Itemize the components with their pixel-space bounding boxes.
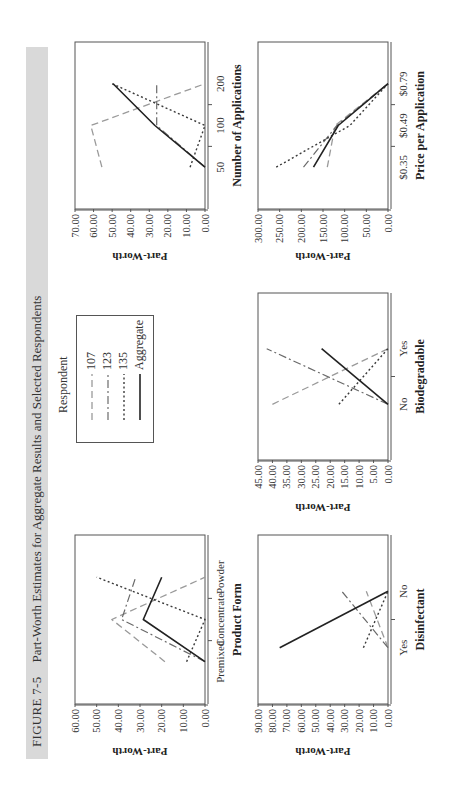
y-tick-label: 20.00 bbox=[156, 709, 167, 733]
y-tick-label: 60.00 bbox=[70, 709, 81, 733]
y-tick-label: 0.00 bbox=[200, 214, 211, 232]
y-tick-label: 60.00 bbox=[296, 709, 307, 733]
y-tick-label: 30.00 bbox=[296, 465, 307, 489]
figure-title: FIGURE 7-5Part-Worth Estimates for Aggre… bbox=[29, 296, 45, 747]
series-107 bbox=[366, 591, 388, 647]
y-tick-label: 60.00 bbox=[88, 214, 99, 238]
x-tick-label: Concentrate bbox=[214, 593, 226, 646]
x-tick-label: Yes bbox=[397, 640, 409, 656]
legend-item-123: 123 bbox=[101, 316, 115, 442]
y-tick-label: 10.00 bbox=[368, 709, 379, 733]
series-107 bbox=[112, 577, 205, 662]
y-tick-label: 150.00 bbox=[318, 214, 329, 243]
legend-item-135: 135 bbox=[117, 316, 131, 442]
chart-svg: 0.0050.00100.00150.00200.00250.00300.00$… bbox=[256, 38, 436, 261]
x-tick-label: 100 bbox=[214, 117, 226, 134]
y-tick-label: 20.00 bbox=[325, 465, 336, 489]
plot-frame bbox=[258, 535, 388, 704]
y-tick-label: 100.00 bbox=[339, 214, 350, 243]
series-123 bbox=[157, 84, 205, 168]
chart-biodegradable: 0.005.0010.0015.0020.0025.0030.0035.0040… bbox=[256, 289, 436, 512]
x-axis-title: Price per Application bbox=[413, 71, 427, 180]
y-tick-label: 50.00 bbox=[107, 214, 118, 238]
y-axis-title: Part-Worth bbox=[113, 251, 168, 263]
series-aggregate bbox=[314, 84, 389, 168]
solid-line-icon bbox=[139, 374, 141, 420]
y-tick-label: 45.00 bbox=[253, 465, 264, 489]
x-tick-label: Premixed bbox=[214, 640, 226, 683]
legend-item-aggregate: Aggregate bbox=[133, 316, 147, 442]
legend-item-107: 107 bbox=[85, 316, 99, 442]
series-135 bbox=[339, 349, 388, 405]
dotted-line-icon bbox=[123, 374, 125, 420]
legend-label: Aggregate bbox=[132, 320, 147, 370]
x-tick-label: Yes bbox=[397, 341, 409, 357]
series-107 bbox=[91, 84, 205, 168]
figure-title-band: FIGURE 7-5Part-Worth Estimates for Aggre… bbox=[26, 47, 48, 759]
y-tick-label: 50.00 bbox=[91, 709, 102, 733]
x-tick-label: $0.79 bbox=[397, 71, 409, 96]
chart-svg: 0.005.0010.0015.0020.0025.0030.0035.0040… bbox=[256, 289, 436, 512]
y-tick-label: 20.00 bbox=[354, 709, 365, 733]
y-tick-label: 40.00 bbox=[267, 465, 278, 489]
series-123 bbox=[304, 84, 389, 168]
series-aggregate bbox=[280, 591, 388, 647]
y-tick-label: 5.00 bbox=[368, 465, 379, 483]
y-tick-label: 80.00 bbox=[267, 709, 278, 733]
x-tick-label: 50 bbox=[214, 161, 226, 173]
x-axis-title: Number of Applications bbox=[230, 64, 244, 187]
y-tick-label: 70.00 bbox=[70, 214, 81, 238]
y-tick-label: 0.00 bbox=[383, 214, 394, 232]
chart-svg: 0.0010.0020.0030.0040.0050.0060.00Premix… bbox=[73, 531, 253, 756]
y-tick-label: 10.00 bbox=[181, 214, 192, 238]
y-tick-label: 50.00 bbox=[310, 709, 321, 733]
dashed-line-icon bbox=[91, 374, 93, 420]
figure-caption: Part-Worth Estimates for Aggregate Resul… bbox=[29, 296, 44, 663]
y-tick-label: 40.00 bbox=[113, 709, 124, 733]
y-tick-label: 10.00 bbox=[178, 709, 189, 733]
y-axis-title: Part-Worth bbox=[296, 251, 351, 263]
y-tick-label: 25.00 bbox=[310, 465, 321, 489]
y-tick-label: 250.00 bbox=[274, 214, 285, 243]
y-axis-title: Part-Worth bbox=[296, 746, 351, 758]
chart-disinfectant: 0.0010.0020.0030.0040.0050.0060.0070.008… bbox=[256, 531, 436, 756]
y-tick-label: 300.00 bbox=[253, 214, 264, 243]
dashdot-line-icon bbox=[107, 374, 109, 420]
y-tick-label: 90.00 bbox=[253, 709, 264, 733]
y-tick-label: 40.00 bbox=[125, 214, 136, 238]
plot-frame bbox=[75, 535, 205, 704]
series-aggregate bbox=[322, 349, 388, 405]
y-tick-label: 0.00 bbox=[383, 465, 394, 483]
x-axis-title: Biodegradable bbox=[413, 338, 427, 413]
x-tick-label: $0.35 bbox=[397, 154, 409, 179]
chart-product-form: 0.0010.0020.0030.0040.0050.0060.00Premix… bbox=[73, 531, 253, 756]
y-tick-label: 0.00 bbox=[200, 709, 211, 727]
y-tick-label: 40.00 bbox=[325, 709, 336, 733]
legend-label: 123 bbox=[100, 352, 115, 370]
y-axis-title: Part-Worth bbox=[113, 746, 168, 758]
y-tick-label: 200.00 bbox=[296, 214, 307, 243]
y-tick-label: 30.00 bbox=[144, 214, 155, 238]
x-tick-label: No bbox=[397, 584, 409, 598]
x-tick-label: Powder bbox=[214, 560, 226, 594]
x-tick-label: $0.49 bbox=[397, 113, 409, 138]
plot-frame bbox=[75, 42, 205, 209]
series-135 bbox=[363, 591, 388, 647]
x-tick-label: 200 bbox=[214, 75, 226, 92]
y-axis-title: Part-Worth bbox=[296, 502, 351, 514]
y-tick-label: 30.00 bbox=[339, 709, 350, 733]
x-axis-title: Product Form bbox=[230, 583, 244, 656]
legend: 107 123 135 Aggregate bbox=[76, 315, 154, 443]
series-123 bbox=[342, 591, 388, 647]
legend-label: 135 bbox=[116, 352, 131, 370]
figure-label: FIGURE 7-5 bbox=[29, 676, 44, 747]
y-tick-label: 70.00 bbox=[281, 709, 292, 733]
chart-price-per-application: 0.0050.00100.00150.00200.00250.00300.00$… bbox=[256, 38, 436, 261]
series-123 bbox=[267, 349, 388, 405]
x-tick-label: No bbox=[397, 397, 409, 411]
legend-title: Respondent bbox=[56, 356, 71, 413]
chart-number-of-applications: 0.0010.0020.0030.0040.0050.0060.0070.005… bbox=[73, 38, 253, 261]
y-tick-label: 10.00 bbox=[354, 465, 365, 489]
series-aggregate bbox=[143, 577, 205, 662]
plot-frame bbox=[258, 293, 388, 460]
